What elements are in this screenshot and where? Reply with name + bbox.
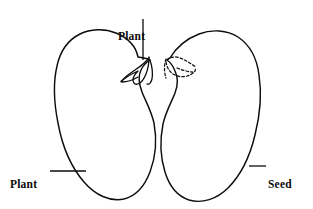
embryo-impression-dashed-stem [165, 59, 167, 78]
label-plant-food-line-1: Plant [10, 178, 37, 192]
label-plant: Plant [118, 3, 145, 71]
bean-seed-diagram: Plant Plant Food Seed Cover [0, 0, 313, 209]
label-plant-line-1: Plant [118, 30, 145, 44]
seed-drawing [0, 0, 313, 209]
embryo-plant-radicle [147, 60, 152, 84]
label-seed-cover: Seed Cover [268, 151, 299, 209]
label-seed-cover-line-1: Seed [268, 178, 299, 192]
label-plant-food: Plant Food [10, 151, 37, 209]
